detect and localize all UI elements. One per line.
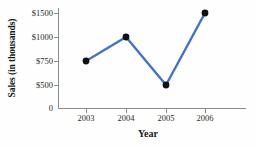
data-point-2003[interactable] xyxy=(83,58,90,65)
plot-area xyxy=(0,0,257,146)
data-point-2006[interactable] xyxy=(202,10,209,17)
data-point-2004[interactable] xyxy=(123,34,130,41)
chart-screenshot: Sales (in thousands) $1500 $1000 $750 $5… xyxy=(0,0,257,146)
series-line-sales xyxy=(86,13,205,85)
data-point-2005[interactable] xyxy=(163,82,170,89)
